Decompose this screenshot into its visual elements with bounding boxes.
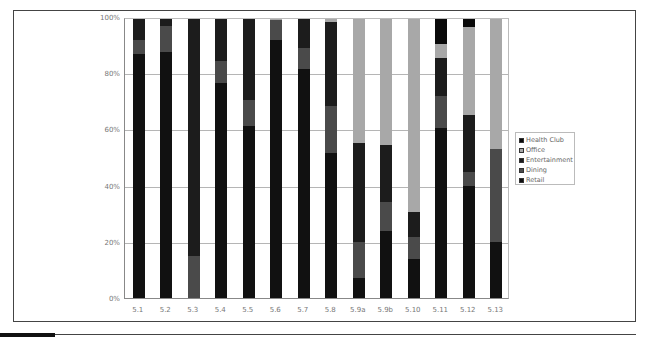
x-tick-label: 5.7 [289,306,316,314]
bar-segment-retail [380,231,392,298]
bar-segment-entertainment [380,145,392,202]
bar-segment-office [435,44,447,58]
bar-segment-entertainment [160,19,172,26]
bar-segment-entertainment [353,143,365,242]
bar-segment-dining [463,172,475,186]
gridline [125,74,508,75]
legend-item-dining: Dining [519,165,571,175]
x-tick-label: 5.9a [344,306,371,314]
gridline [125,187,508,188]
bar-segment-office [353,19,365,143]
legend-swatch-icon [519,178,524,183]
bar-segment-retail [408,259,420,298]
bar-segment-health-club [463,19,475,27]
bar-segment-retail [353,278,365,298]
bar-segment-office [380,19,392,145]
bar-segment-retail [435,128,447,298]
y-tick-label: 40% [80,183,120,191]
y-tick-label: 60% [80,126,120,134]
y-tick-label: 20% [80,239,120,247]
bar-segment-dining [408,237,420,259]
bar-segment-office [490,19,502,149]
bar-segment-dining [380,202,392,231]
bar-segment-dining [188,256,200,298]
y-tick-label: 100% [80,14,120,22]
stacked-bar-5-8 [325,19,337,298]
x-tick-label: 5.4 [207,306,234,314]
legend-swatch-icon [519,148,524,153]
bar-segment-retail [270,40,282,298]
x-tick-label: 5.5 [234,306,261,314]
bar-segment-entertainment [408,212,420,237]
bar-segment-retail [298,69,310,298]
x-tick-label: 5.10 [399,306,426,314]
bar-segment-entertainment [298,19,310,48]
bar-segment-entertainment [325,22,337,106]
bar-segment-entertainment [215,19,227,61]
bar-segment-retail [325,153,337,298]
bar-segment-entertainment [435,58,447,96]
bar-segment-entertainment [133,19,145,40]
stacked-bar-5-12 [463,19,475,298]
x-tick-label: 5.1 [124,306,151,314]
legend-swatch-icon [519,158,524,163]
gridline [125,243,508,244]
stacked-bar-5-3 [188,19,200,298]
stacked-bar-5-6 [270,19,282,298]
bar-segment-dining [133,40,145,54]
legend: Health Club Office Entertainment Dining … [515,132,575,185]
bar-segment-entertainment [463,115,475,172]
bar-segment-health-club [435,19,447,44]
bar-segment-retail [133,54,145,298]
bar-segment-office [463,27,475,115]
stacked-bar-5-4 [215,19,227,298]
x-tick-label: 5.3 [179,306,206,314]
legend-item-retail: Retail [519,175,571,185]
bar-segment-office [408,19,420,212]
bar-segment-dining [353,242,365,278]
footer-block [0,333,55,337]
x-tick-label: 5.9b [372,306,399,314]
legend-item-entertainment: Entertainment [519,155,571,165]
x-tick-label: 5.13 [482,306,509,314]
x-tick-label: 5.8 [317,306,344,314]
gridline [125,130,508,131]
bar-segment-entertainment [243,19,255,100]
stacked-bar-5-2 [160,19,172,298]
bar-segment-dining [215,61,227,83]
stacked-bar-5-5 [243,19,255,298]
legend-item-health-club: Health Club [519,135,571,145]
bar-segment-dining [298,48,310,69]
stacked-bar-5-1 [133,19,145,298]
bar-segment-dining [270,20,282,40]
x-tick-label: 5.12 [454,306,481,314]
legend-item-office: Office [519,145,571,155]
bar-segment-dining [160,26,172,53]
bar-segment-entertainment [188,19,200,256]
stacked-bar-5-10 [408,19,420,298]
x-tick-label: 5.6 [262,306,289,314]
bar-segment-dining [490,149,502,242]
bar-segment-dining [325,106,337,153]
bar-segment-retail [215,83,227,298]
bar-segment-dining [243,100,255,127]
x-tick-label: 5.2 [152,306,179,314]
legend-swatch-icon [519,168,524,173]
stacked-bar-5-9a [353,19,365,298]
bar-segment-dining [435,96,447,128]
bar-segment-retail [490,242,502,298]
stacked-bar-5-11 [435,19,447,298]
stacked-bar-5-7 [298,19,310,298]
x-tick-label: 5.11 [427,306,454,314]
plot-area [124,18,509,299]
bar-segment-retail [243,126,255,298]
stacked-bar-5-13 [490,19,502,298]
y-tick-label: 80% [80,70,120,78]
y-tick-label: 0% [80,295,120,303]
footer-divider [55,334,636,335]
stacked-bar-5-9b [380,19,392,298]
legend-swatch-icon [519,138,524,143]
bar-segment-retail [463,186,475,298]
bar-segment-retail [160,52,172,298]
